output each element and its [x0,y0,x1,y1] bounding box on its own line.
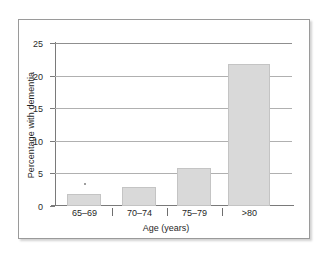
y-tick-5: 5 [50,173,55,174]
plot-area: 25 20 15 10 5 0 [55,43,275,206]
y-tick-25: 25 [50,43,55,44]
bar-slot-65-69 [56,43,111,206]
x-tick-label-over-80: >80 [222,209,277,218]
y-axis-title: Percentage with dementia [25,43,37,206]
y-tick-10: 10 [50,141,55,142]
bar-over-80[interactable] [228,64,270,206]
y-tick-15: 15 [50,108,55,109]
y-tick-label-15: 15 [33,105,43,114]
figure-root: Percentage with dementia 25 20 15 10 [0,0,332,264]
bars-layer [56,43,275,206]
x-tick-label-75-79: 75–79 [167,209,222,218]
bar-75-79[interactable] [177,168,211,206]
bar-slot-over-80 [221,43,276,206]
y-tick-label-20: 20 [33,72,43,81]
chart-frame: Percentage with dementia 25 20 15 10 [18,19,310,239]
x-axis: 65–69 70–74 75–79 >80 [56,207,276,223]
y-tick-label-5: 5 [38,170,43,179]
y-tick-label-10: 10 [33,137,43,146]
bar-slot-70-74 [111,43,166,206]
y-tick-label-0: 0 [38,203,43,212]
y-axis-title-label: Percentage with dementia [26,71,36,177]
bar-65-69[interactable] [67,194,101,206]
scan-artifact-speck [84,183,86,185]
y-tick-20: 20 [50,76,55,77]
x-tick-label-70-74: 70–74 [112,209,167,218]
bar-70-74[interactable] [122,187,156,206]
y-tick-label-25: 25 [33,40,43,49]
x-tick-label-65-69: 65–69 [57,209,112,218]
y-tick-0: 0 [50,206,55,207]
bar-slot-75-79 [166,43,221,206]
x-axis-title: Age (years) [55,223,277,233]
